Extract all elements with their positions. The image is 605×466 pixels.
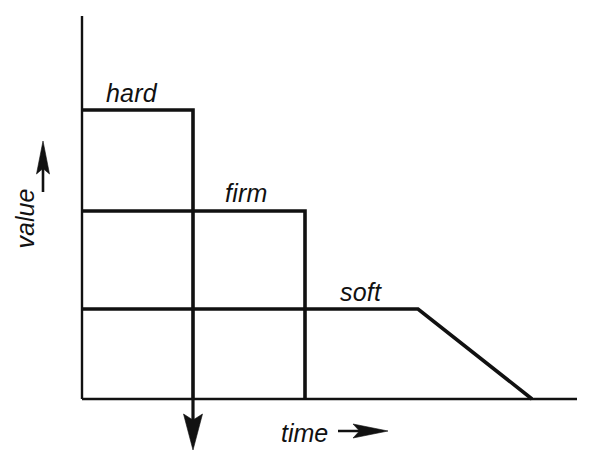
x-axis-title: time [281, 419, 328, 448]
y-axis-title: value [11, 189, 40, 249]
value-axis-arrow [37, 141, 50, 192]
soft-envelope-path [82, 309, 532, 399]
hard-release-continuation [184, 399, 203, 450]
hard-envelope-path [82, 110, 193, 399]
label-firm: firm [225, 179, 267, 208]
diagram-canvas [0, 0, 605, 466]
envelope-soft [82, 309, 532, 399]
envelope-hard [82, 110, 193, 399]
time-axis-arrow [338, 424, 388, 438]
label-hard: hard [106, 79, 157, 108]
step-decay-diagram: hard firm soft time value [0, 0, 605, 466]
label-soft: soft [340, 278, 381, 307]
